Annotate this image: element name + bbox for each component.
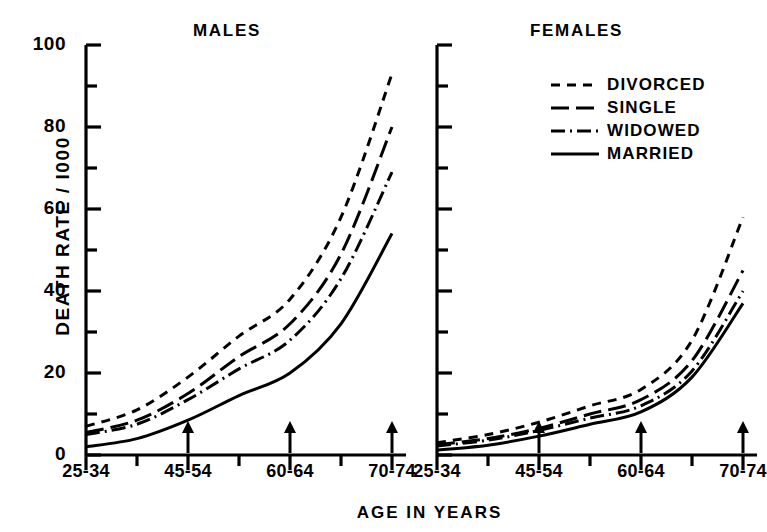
series-males-single	[86, 127, 392, 432]
panel-females	[437, 45, 757, 470]
series-females-single	[437, 271, 743, 445]
series-females-married	[437, 303, 743, 450]
panel-males	[86, 45, 406, 470]
series-males-divorced	[86, 74, 392, 427]
series-males-married	[86, 234, 392, 447]
series-females-divorced	[437, 217, 743, 443]
